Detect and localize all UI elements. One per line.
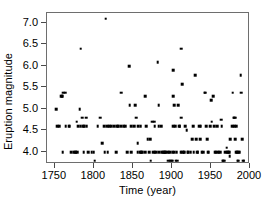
scatter-point xyxy=(239,74,242,77)
scatter-point xyxy=(130,151,133,154)
scatter-point xyxy=(206,138,209,141)
scatter-point xyxy=(144,95,147,98)
y-tick-label: 7.0 xyxy=(0,17,38,28)
scatter-point xyxy=(180,116,183,119)
scatter-point xyxy=(237,159,240,162)
scatter-point xyxy=(185,129,188,132)
x-tick-label: 1950 xyxy=(190,170,230,181)
scatter-point xyxy=(219,151,222,154)
scatter-point xyxy=(173,104,176,107)
scatter-point xyxy=(61,151,64,154)
scatter-point xyxy=(177,104,180,107)
scatter-point xyxy=(104,17,107,20)
scatter-point xyxy=(61,95,64,98)
scatter-point xyxy=(234,116,237,119)
scatter-point xyxy=(101,142,104,145)
scatter-point xyxy=(122,125,125,128)
scatter-point xyxy=(232,91,235,94)
scatter-point xyxy=(237,151,240,154)
scatter-point xyxy=(207,151,210,154)
scatter-point xyxy=(180,47,183,50)
y-tick-label: 4.0 xyxy=(0,146,38,157)
scatter-point xyxy=(64,91,67,94)
x-tick-mark xyxy=(210,163,211,168)
y-tick-label: 5.0 xyxy=(0,103,38,114)
scatter-point xyxy=(220,118,223,121)
scatter-point xyxy=(172,69,175,72)
x-tick-mark xyxy=(132,163,133,168)
scatter-point xyxy=(192,125,195,128)
scatter-point xyxy=(184,125,187,128)
scatter-point xyxy=(242,159,245,162)
scatter-point xyxy=(137,125,140,128)
scatter-point xyxy=(194,74,197,77)
scatter-point xyxy=(209,125,212,128)
scatter-point xyxy=(136,142,139,145)
x-tick-mark xyxy=(171,163,172,168)
scatter-point xyxy=(78,108,81,111)
scatter-point xyxy=(68,125,71,128)
scatter-point xyxy=(82,151,85,154)
scatter-point xyxy=(235,125,238,128)
x-axis-title: Time (year) xyxy=(46,184,249,196)
scatter-point xyxy=(128,65,131,68)
scatter-point xyxy=(99,116,102,119)
scatter-point xyxy=(221,125,224,128)
x-tick-label: 2000 xyxy=(229,170,269,181)
scatter-point xyxy=(169,151,172,154)
scatter-point xyxy=(93,151,96,154)
x-tick-label: 1800 xyxy=(73,170,113,181)
scatter-point xyxy=(93,159,96,162)
scatter-point xyxy=(183,151,186,154)
scatter-point xyxy=(55,108,58,111)
y-axis-title: Eruption magnitude xyxy=(0,0,16,203)
y-tick-label: 6.0 xyxy=(0,60,38,71)
x-tick-mark xyxy=(249,163,250,168)
scatter-point xyxy=(191,138,194,141)
scatter-point xyxy=(134,104,137,107)
scatter-point xyxy=(86,125,89,128)
scatter-point xyxy=(200,125,203,128)
scatter-point xyxy=(160,125,163,128)
scatter-point xyxy=(205,125,208,128)
scatter-points-layer xyxy=(47,13,248,162)
scatter-point xyxy=(115,151,118,154)
scatter-point xyxy=(126,151,129,154)
scatter-point xyxy=(234,138,237,141)
scatter-point xyxy=(153,121,156,124)
scatter-point xyxy=(148,151,151,154)
scatter-point xyxy=(145,125,148,128)
scatter-point xyxy=(178,125,181,128)
scatter-point xyxy=(228,155,231,158)
scatter-point xyxy=(133,125,136,128)
x-tick-label: 1900 xyxy=(151,170,191,181)
scatter-point xyxy=(199,138,202,141)
scatter-point xyxy=(139,125,142,128)
scatter-point xyxy=(135,116,138,119)
scatter-point xyxy=(157,104,160,107)
plot-area xyxy=(46,12,249,163)
scatter-point xyxy=(174,125,177,128)
scatter-point xyxy=(96,125,99,128)
scatter-point xyxy=(210,121,213,124)
scatter-point xyxy=(79,47,82,50)
scatter-point xyxy=(81,116,84,119)
scatter-point xyxy=(171,159,174,162)
scatter-point xyxy=(58,125,61,128)
y-tick-label: 5.5 xyxy=(0,81,38,92)
scatter-point xyxy=(85,116,88,119)
scatter-point xyxy=(210,99,213,102)
x-tick-mark xyxy=(54,163,55,168)
scatter-point xyxy=(153,125,156,128)
scatter-point xyxy=(181,83,184,86)
scatter-point xyxy=(229,138,232,141)
scatter-point xyxy=(108,125,111,128)
scatter-point xyxy=(195,138,198,141)
scatter-point xyxy=(120,91,123,94)
scatter-point xyxy=(107,151,110,154)
scatter-point xyxy=(157,61,160,64)
scatter-point xyxy=(216,125,219,128)
eruption-magnitude-scatter-figure: Eruption magnitude 4.04.55.05.56.06.57.0… xyxy=(0,0,272,203)
scatter-point xyxy=(223,159,226,162)
scatter-point xyxy=(144,151,147,154)
